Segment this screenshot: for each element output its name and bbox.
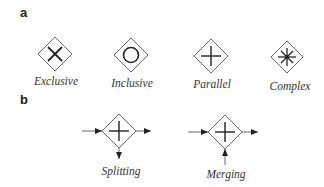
gateway-diagram (0, 0, 324, 187)
splitting-gateway (82, 114, 151, 159)
caption-inclusive: Inclusive (111, 77, 153, 89)
x-cross-icon (48, 47, 62, 61)
exclusive-gateway (38, 37, 72, 71)
circle-icon (124, 48, 139, 63)
parallel-gateway (194, 39, 228, 73)
caption-splitting: Splitting (102, 165, 141, 177)
complex-gateway (271, 41, 303, 73)
plus-icon (201, 46, 221, 66)
caption-merging: Merging (206, 168, 245, 180)
caption-exclusive: Exclusive (34, 75, 78, 87)
caption-parallel: Parallel (193, 78, 231, 90)
caption-complex: Complex (270, 80, 311, 92)
plus-icon (109, 121, 129, 141)
asterisk-icon (278, 48, 296, 66)
inclusive-gateway (114, 38, 148, 72)
merging-gateway (188, 115, 258, 165)
plus-icon (215, 122, 235, 142)
